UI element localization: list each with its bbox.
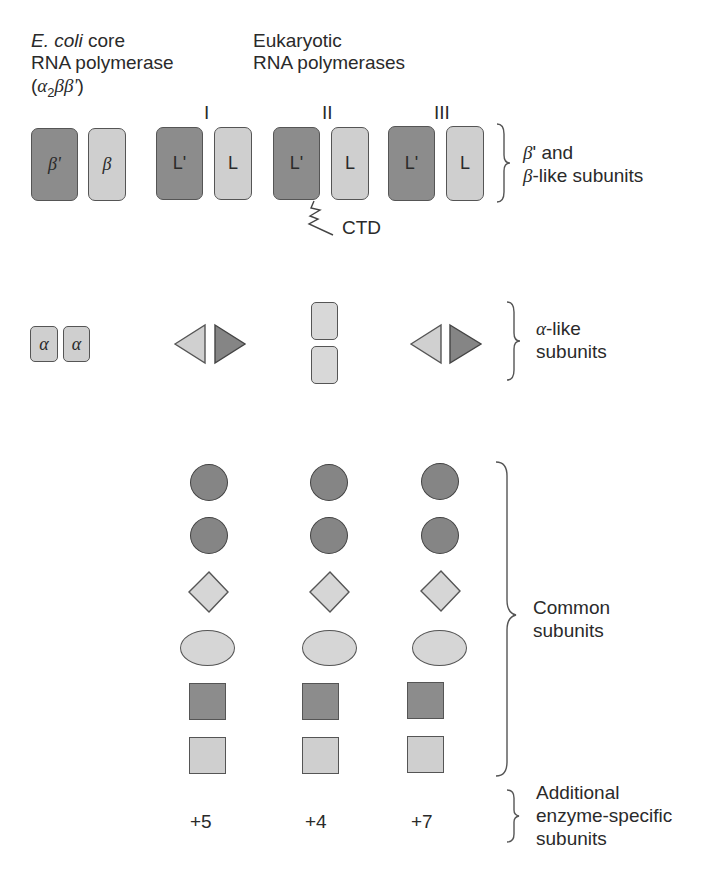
pol-II-common-ellipse bbox=[302, 630, 357, 666]
pol-III-common-dark-square bbox=[407, 682, 444, 719]
pol-I-common-ellipse bbox=[180, 630, 235, 666]
additional-group-label-3: subunits bbox=[536, 828, 607, 850]
common-group-label: Common bbox=[533, 597, 610, 619]
pol-II-common-dark-square bbox=[302, 683, 339, 720]
brace-icon bbox=[494, 460, 524, 780]
brace-icon bbox=[505, 788, 525, 844]
additional-group-label-2: enzyme-specific bbox=[536, 805, 672, 827]
common-diamonds bbox=[0, 0, 715, 869]
pol-II-additional-count: +4 bbox=[305, 811, 327, 833]
pol-I-common-light-square bbox=[189, 737, 226, 774]
pol-I-common-dark-square bbox=[189, 683, 226, 720]
common-group-label-2: subunits bbox=[533, 620, 604, 642]
pol-I-additional-count: +5 bbox=[190, 811, 212, 833]
pol-II-common-diamond bbox=[310, 572, 349, 612]
pol-I-common-diamond bbox=[189, 572, 228, 612]
pol-III-additional-count: +7 bbox=[411, 811, 433, 833]
additional-group-label: Additional bbox=[536, 782, 619, 804]
pol-III-common-light-square bbox=[407, 736, 444, 773]
pol-III-common-diamond bbox=[421, 571, 460, 611]
pol-III-common-ellipse bbox=[412, 630, 467, 666]
pol-II-common-light-square bbox=[302, 737, 339, 774]
